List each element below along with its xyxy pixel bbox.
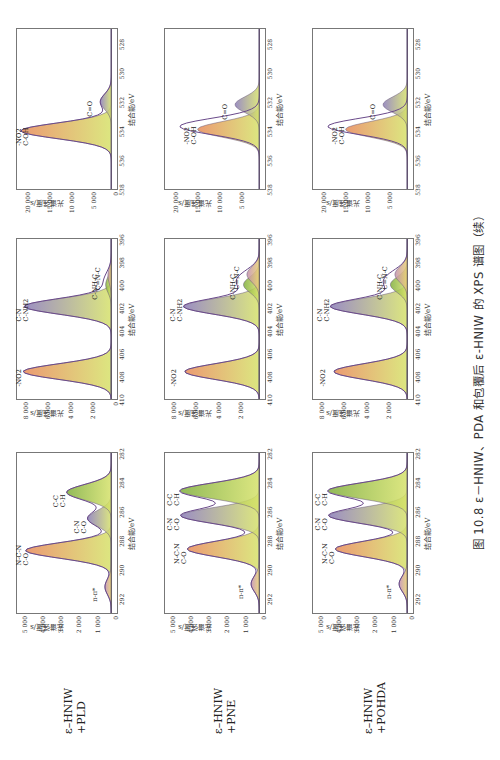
row-label-line2: +PLD: [75, 664, 88, 734]
peak-annotation: C-CC-H: [53, 494, 67, 507]
peak-annotation: C=N-C: [382, 266, 389, 289]
peak-annotation: -NO2: [171, 369, 178, 386]
peak-annotation: N-C-NC-O: [16, 545, 30, 566]
y-tick: 5 000: [238, 192, 245, 218]
y-tick: 2 000: [89, 402, 96, 428]
x-tick: 528: [266, 35, 273, 55]
y-tick: 4 000: [215, 402, 222, 428]
x-tick: 292: [266, 589, 273, 609]
row-label-line1: ε–HNIW: [62, 664, 75, 734]
x-tick: 410: [118, 390, 125, 410]
x-tick: 292: [414, 589, 421, 609]
y-tick: 4 000: [67, 402, 74, 428]
row-label-pld: ε–HNIW+PLD: [62, 664, 88, 734]
x-tick: 530: [118, 64, 125, 84]
x-tick: 396: [118, 230, 125, 250]
peak-annotation: -NO2C-OH: [16, 128, 30, 146]
peak-annotation: C=O: [370, 104, 377, 120]
peak-annotation: N-C-NC-O: [322, 543, 336, 564]
x-tick: 400: [266, 276, 273, 296]
peak-annotation: C-NC-O: [74, 521, 88, 534]
x-tick: 400: [118, 276, 125, 296]
plot-area: [16, 28, 118, 190]
plot-area: [164, 28, 266, 190]
x-tick: 398: [266, 253, 273, 273]
y-tick: 6 000: [44, 402, 51, 428]
row-label-pohda: ε–HNIW+POHDA: [362, 664, 388, 734]
spectrum-panel: 光谱强度/s5 00010 00015 00020 00053853653453…: [308, 24, 438, 220]
plot-area: [164, 452, 266, 614]
x-tick: 536: [118, 151, 125, 171]
peak-annotation: -NO2C-OH: [184, 126, 198, 144]
y-tick: 5 000: [317, 616, 324, 642]
x-tick: 282: [414, 444, 421, 464]
y-tick: 2 000: [223, 616, 230, 642]
x-tick: 284: [414, 473, 421, 493]
y-tick: 4 000: [39, 616, 46, 642]
x-axis-label: 结合能/eV: [274, 454, 284, 614]
y-tick: 15 000: [342, 192, 349, 218]
x-tick: 408: [118, 367, 125, 387]
x-tick: 396: [266, 230, 273, 250]
spectrum-panel: 光谱强度/s02 0004 0006 0008 0004104084064044…: [12, 234, 142, 430]
y-tick: 20 000: [172, 192, 179, 218]
y-tick: 2 000: [371, 616, 378, 642]
peak-annotation: C-CC-H: [167, 493, 181, 506]
row-label-line1: ε–HNIW: [362, 664, 375, 734]
spectrum-panel: 光谱强度/s5 00010 00015 00020 00053853653453…: [160, 24, 290, 220]
y-tick: 6 000: [192, 402, 199, 428]
y-tick: 4 000: [363, 402, 370, 428]
x-axis-label: 结合能/eV: [126, 30, 136, 190]
y-tick: 3 000: [57, 616, 64, 642]
spectrum-panel: 光谱强度/s01 0002 0003 0004 0005 00029229028…: [308, 448, 438, 644]
x-tick: 538: [266, 180, 273, 200]
spectrum-panel: 光谱强度/s2 0004 0006 0008 00041040840640440…: [308, 234, 438, 430]
x-tick: 530: [266, 64, 273, 84]
x-tick: 534: [118, 122, 125, 142]
row-label-pne: ε–HNIW+PNE: [212, 664, 238, 734]
plot-area: [312, 452, 414, 614]
peak-annotation: π-π*: [238, 585, 245, 599]
spectrum-panel: 光谱强度/s01 0002 0003 0004 0005 00029229028…: [12, 448, 142, 644]
x-tick: 406: [414, 344, 421, 364]
y-tick: 10 000: [364, 192, 371, 218]
x-axis-label: 结合能/eV: [126, 240, 136, 400]
y-tick: 20 000: [320, 192, 327, 218]
row-label-line2: +PNE: [225, 664, 238, 734]
x-axis-label: 结合能/eV: [274, 30, 284, 190]
rotated-figure-page: ε–HNIW+PLD ε–HNIW+PNE ε–HNIW+POHDA 光谱强度/…: [0, 0, 500, 760]
x-tick: 528: [414, 35, 421, 55]
y-tick: 5 000: [386, 192, 393, 218]
x-tick: 290: [118, 560, 125, 580]
y-tick: 4 000: [335, 616, 342, 642]
plot-area: [16, 452, 118, 614]
x-tick: 398: [118, 253, 125, 273]
y-tick: 15 000: [46, 192, 53, 218]
x-tick: 282: [266, 444, 273, 464]
spectrum-panel: 光谱强度/s05 00010 00015 00020 0005385365345…: [12, 24, 142, 220]
figure-caption: 图 10.8 ε－HNIW、PDA 和包覆后 ε-HNIW 的 XPS 谱图（续…: [470, 0, 486, 760]
x-tick: 402: [118, 299, 125, 319]
peak-annotation: C=O: [222, 104, 229, 120]
x-tick: 400: [414, 276, 421, 296]
y-tick: 20 000: [24, 192, 31, 218]
x-tick: 402: [414, 299, 421, 319]
x-tick: 406: [118, 344, 125, 364]
x-tick: 408: [266, 367, 273, 387]
y-tick: 5 000: [169, 616, 176, 642]
x-tick: 538: [118, 180, 125, 200]
y-tick: 4 000: [187, 616, 194, 642]
peak-annotation: C-NC-NH2: [170, 299, 184, 322]
peak-annotation: C-NC-NH2: [16, 299, 30, 322]
x-tick: 534: [414, 122, 421, 142]
peak-annotation: π-π*: [92, 588, 99, 602]
x-tick: 284: [266, 473, 273, 493]
y-tick: 0: [408, 616, 415, 642]
x-axis-label: 结合能/eV: [126, 454, 136, 614]
peak-annotation: C-NC-O: [167, 518, 181, 531]
peak-annotation: C-NC-NH2: [317, 299, 331, 322]
x-tick: 286: [118, 502, 125, 522]
x-tick: 532: [414, 93, 421, 113]
y-tick: 1 000: [94, 616, 101, 642]
y-tick: 10 000: [68, 192, 75, 218]
